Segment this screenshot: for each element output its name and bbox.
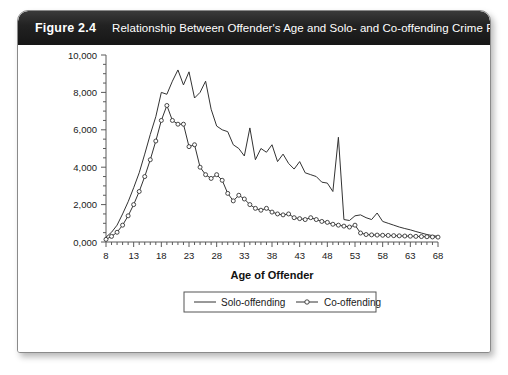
x-tick-label: 8 bbox=[103, 250, 108, 261]
data-point-marker bbox=[259, 208, 263, 212]
x-tick-label: 18 bbox=[156, 250, 167, 261]
data-point-marker bbox=[303, 218, 307, 222]
x-tick-label: 28 bbox=[211, 250, 222, 261]
data-point-marker bbox=[264, 206, 268, 210]
data-point-marker bbox=[408, 234, 412, 238]
data-point-marker bbox=[281, 213, 285, 217]
x-tick-label: 43 bbox=[294, 250, 305, 261]
figure-card: Figure 2.4 Relationship Between Offender… bbox=[17, 10, 491, 353]
data-point-marker bbox=[425, 235, 429, 239]
line-chart: 0,0002,0004,0006,0008,00010,000 81318232… bbox=[18, 45, 491, 353]
data-point-marker bbox=[325, 220, 329, 224]
series-line-co-offending bbox=[106, 105, 438, 239]
data-point-marker bbox=[176, 122, 180, 126]
data-point-marker bbox=[198, 165, 202, 169]
data-point-marker bbox=[331, 222, 335, 226]
data-point-marker bbox=[320, 219, 324, 223]
data-point-marker bbox=[154, 139, 158, 143]
data-point-marker bbox=[375, 233, 379, 237]
data-point-marker bbox=[381, 233, 385, 237]
data-point-marker bbox=[181, 122, 185, 126]
data-point-marker bbox=[436, 235, 440, 239]
data-point-marker bbox=[148, 158, 152, 162]
data-point-marker bbox=[430, 235, 434, 239]
data-point-marker bbox=[370, 233, 374, 237]
x-tick-label: 38 bbox=[267, 250, 278, 261]
y-tick-label: 0,000 bbox=[73, 237, 97, 248]
data-point-marker bbox=[137, 190, 141, 194]
data-point-marker bbox=[132, 203, 136, 207]
data-point-marker bbox=[292, 216, 296, 220]
data-point-marker bbox=[159, 118, 163, 122]
data-point-marker bbox=[347, 225, 351, 229]
data-point-marker bbox=[392, 234, 396, 238]
data-point-marker bbox=[165, 103, 169, 107]
data-point-marker bbox=[359, 231, 363, 235]
x-tick-label: 23 bbox=[184, 250, 195, 261]
y-tick-label: 4,000 bbox=[73, 162, 97, 173]
data-point-marker bbox=[298, 217, 302, 221]
x-tick-label: 53 bbox=[350, 250, 361, 261]
data-point-marker bbox=[248, 203, 252, 207]
y-tick-label: 10,000 bbox=[68, 50, 97, 61]
data-point-marker bbox=[226, 191, 230, 195]
data-point-marker bbox=[104, 237, 108, 241]
x-tick-label: 58 bbox=[377, 250, 388, 261]
x-axis: 8131823283338434853586368 bbox=[103, 242, 443, 261]
data-point-marker bbox=[253, 206, 257, 210]
y-tick-label: 8,000 bbox=[73, 87, 97, 98]
data-point-marker bbox=[193, 143, 197, 147]
data-point-marker bbox=[110, 234, 114, 238]
data-point-marker bbox=[414, 234, 418, 238]
data-point-marker bbox=[121, 223, 125, 227]
y-tick-label: 6,000 bbox=[73, 124, 97, 135]
figure-title: Relationship Between Offender's Age and … bbox=[112, 22, 491, 34]
x-axis-title-text: Age of Offender bbox=[230, 269, 314, 281]
y-tick-label: 2,000 bbox=[73, 199, 97, 210]
data-point-marker bbox=[353, 223, 357, 227]
data-point-marker bbox=[115, 230, 119, 234]
data-point-marker bbox=[386, 233, 390, 237]
x-tick-label: 48 bbox=[322, 250, 333, 261]
data-point-marker bbox=[419, 235, 423, 239]
chart-legend: Solo-offendingCo-offending bbox=[184, 292, 381, 312]
y-axis: 0,0002,0004,0006,0008,00010,000 bbox=[68, 50, 106, 248]
data-point-marker bbox=[170, 118, 174, 122]
data-point-marker bbox=[187, 145, 191, 149]
legend-marker-co-offending bbox=[305, 300, 309, 304]
data-point-marker bbox=[270, 210, 274, 214]
x-tick-label: 13 bbox=[128, 250, 139, 261]
data-point-marker bbox=[237, 193, 241, 197]
data-point-marker bbox=[231, 199, 235, 203]
x-tick-label: 63 bbox=[405, 250, 416, 261]
x-axis-title: Age of Offender bbox=[230, 269, 314, 281]
x-tick-label: 33 bbox=[239, 250, 250, 261]
data-point-marker bbox=[314, 218, 318, 222]
data-point-marker bbox=[276, 212, 280, 216]
data-point-marker bbox=[309, 216, 313, 220]
chart-series bbox=[104, 70, 440, 241]
data-point-marker bbox=[242, 197, 246, 201]
chart-plot-region: 0,0002,0004,0006,0008,00010,000 81318232… bbox=[18, 45, 490, 353]
data-point-marker bbox=[403, 234, 407, 238]
figure-number-label: Figure 2.4 bbox=[35, 21, 96, 35]
data-point-marker bbox=[336, 223, 340, 227]
data-point-marker bbox=[342, 224, 346, 228]
data-point-marker bbox=[397, 234, 401, 238]
data-point-marker bbox=[220, 178, 224, 182]
data-point-marker bbox=[143, 175, 147, 179]
figure-header: Figure 2.4 Relationship Between Offender… bbox=[18, 11, 490, 45]
data-point-marker bbox=[364, 233, 368, 237]
legend-label-solo-offending: Solo-offending bbox=[221, 297, 285, 308]
data-point-marker bbox=[287, 212, 291, 216]
legend-label-co-offending: Co-offending bbox=[324, 297, 381, 308]
x-tick-label: 68 bbox=[433, 250, 444, 261]
data-point-marker bbox=[204, 173, 208, 177]
data-point-marker bbox=[215, 173, 219, 177]
data-point-marker bbox=[126, 214, 130, 218]
data-point-marker bbox=[209, 176, 213, 180]
